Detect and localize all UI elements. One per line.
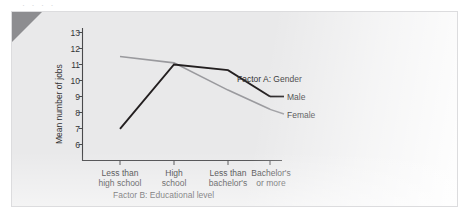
x-category-label-1-line2: school xyxy=(162,178,187,188)
figure-page: · · · · 13 12 11 10 9 8 7 6 Mean number … xyxy=(0,0,470,218)
x-category-label-1-line1: High xyxy=(165,168,182,178)
x-category-label-3-line1: Bachelor's xyxy=(251,168,290,178)
male-series-label: Male xyxy=(287,92,305,102)
series-leader-female xyxy=(270,109,284,114)
x-axis-title: Factor B: Educational level xyxy=(113,190,214,200)
factor-a-gender-annotation: Factor A: Gender xyxy=(237,74,302,84)
x-category-label-3: Bachelor's or more xyxy=(231,168,311,188)
female-series-label: Female xyxy=(287,110,315,120)
x-tick-marks xyxy=(120,161,270,166)
x-category-label-0-line1: Less than xyxy=(102,168,139,178)
cropped-text-strip: · · · · xyxy=(0,0,470,10)
line-chart: 13 12 11 10 9 8 7 6 Mean number of jobs xyxy=(12,12,458,207)
figure-panel: 13 12 11 10 9 8 7 6 Mean number of jobs xyxy=(11,11,458,207)
x-category-label-3-line2: or more xyxy=(256,178,285,188)
axes xyxy=(83,28,283,161)
